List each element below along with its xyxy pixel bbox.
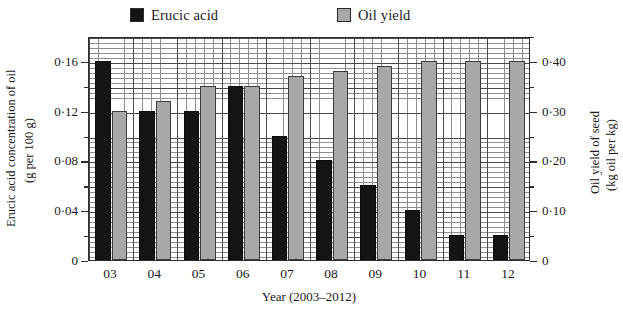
bar-erucic-acid-03 — [95, 61, 111, 260]
legend-item-oil-yield: Oil yield — [337, 5, 411, 25]
y-axis-right-tick-label: 0·10 — [542, 204, 582, 217]
bar-erucic-acid-08 — [316, 160, 332, 260]
x-axis-tick-label-06: 06 — [223, 266, 263, 282]
x-axis-tick-label-11: 11 — [444, 266, 484, 282]
y-axis-right-tick-label: 0 — [542, 254, 582, 267]
legend-swatch-oil-yield — [337, 8, 351, 22]
y-axis-right-minor-tick — [530, 137, 534, 138]
y-axis-left-title-line1: Erucic acid concentration of oil — [4, 36, 19, 261]
bar-oil-yield-07 — [288, 76, 304, 260]
y-axis-left-tick-label: 0·16 — [38, 55, 78, 68]
bar-oil-yield-04 — [156, 101, 172, 260]
y-axis-right-tick-mark — [530, 62, 537, 63]
y-axis-right-minor-tick — [530, 87, 534, 88]
x-axis-tick-label-09: 09 — [355, 266, 395, 282]
y-axis-left-tick-label: 0·08 — [38, 154, 78, 167]
x-axis-title: Year (2003–2012) — [88, 289, 530, 305]
y-axis-right-title-line2: (kg oil per kg) — [604, 90, 619, 220]
bar-oil-yield-10 — [421, 61, 437, 260]
legend-swatch-erucic-acid — [130, 8, 144, 22]
bar-oil-yield-05 — [200, 86, 216, 260]
x-axis-tick-label-08: 08 — [311, 266, 351, 282]
y-axis-left-tick-label: 0·04 — [38, 204, 78, 217]
y-axis-left-tick-mark — [81, 211, 88, 212]
bar-oil-yield-11 — [465, 61, 481, 260]
bar-oil-yield-08 — [333, 71, 349, 260]
y-axis-left-minor-tick — [84, 87, 88, 88]
y-axis-left-minor-tick — [84, 236, 88, 237]
bar-erucic-acid-12 — [493, 235, 509, 260]
y-axis-right-title-line1: Oil yield of seed — [588, 78, 603, 228]
bar-erucic-acid-10 — [405, 210, 421, 260]
x-axis-tick-label-04: 04 — [134, 266, 174, 282]
y-axis-right-tick-label: 0·40 — [542, 55, 582, 68]
y-axis-right-minor-tick — [530, 37, 534, 38]
y-axis-right-tick-label: 0·20 — [542, 154, 582, 167]
x-axis-tick-label-03: 03 — [90, 266, 130, 282]
x-axis-tick-label-10: 10 — [400, 266, 440, 282]
y-axis-right-minor-tick — [530, 236, 534, 237]
bar-oil-yield-09 — [377, 66, 393, 260]
y-axis-left-tick-label: 0 — [38, 254, 78, 267]
x-axis-tick-label-05: 05 — [179, 266, 219, 282]
y-axis-right-tick-mark — [530, 161, 537, 162]
y-axis-left-tick-mark — [81, 62, 88, 63]
y-axis-right-minor-tick — [530, 186, 534, 187]
bar-oil-yield-12 — [509, 61, 525, 260]
bar-erucic-acid-07 — [272, 136, 288, 260]
bar-erucic-acid-05 — [184, 111, 200, 260]
x-axis-tick-label-12: 12 — [488, 266, 528, 282]
bar-erucic-acid-04 — [139, 111, 155, 260]
y-axis-right-tick-mark — [530, 211, 537, 212]
y-axis-left-tick-label: 0·12 — [38, 105, 78, 118]
legend-label-erucic-acid: Erucic acid — [151, 8, 218, 22]
bar-oil-yield-06 — [244, 86, 260, 260]
y-axis-right-tick-mark — [530, 261, 537, 262]
x-axis-tick-label-07: 07 — [267, 266, 307, 282]
bar-erucic-acid-11 — [449, 235, 465, 260]
legend-item-erucic-acid: Erucic acid — [130, 5, 218, 25]
y-axis-left-tick-mark — [81, 161, 88, 162]
y-axis-left-tick-mark — [81, 112, 88, 113]
y-axis-left-tick-mark — [81, 261, 88, 262]
bar-erucic-acid-06 — [228, 86, 244, 260]
y-axis-right-tick-label: 0·30 — [542, 105, 582, 118]
y-axis-right-tick-mark — [530, 112, 537, 113]
legend-label-oil-yield: Oil yield — [358, 8, 411, 22]
plot-area — [88, 37, 530, 261]
y-axis-left-minor-tick — [84, 186, 88, 187]
y-axis-left-minor-tick — [84, 137, 88, 138]
chart-legend: Erucic acid Oil yield — [0, 0, 623, 32]
y-axis-left-title-line2: (g per 100 g) — [22, 76, 37, 226]
bar-oil-yield-03 — [112, 111, 128, 260]
bar-erucic-acid-09 — [360, 185, 376, 260]
